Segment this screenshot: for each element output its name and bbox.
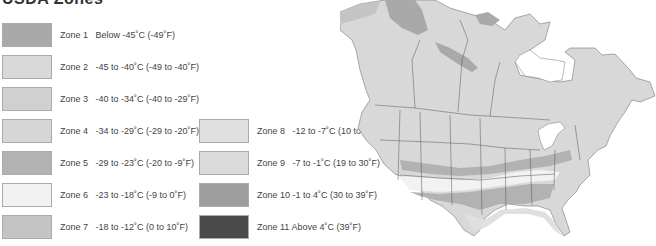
legend-item-zone-4: Zone 4 -34 to -29˚C (-29 to -20˚F) xyxy=(2,118,199,144)
zone-3-swatch xyxy=(2,87,52,111)
zone-2-label: Zone 2 -45 to -40˚C (-49 to -40˚F) xyxy=(60,62,199,72)
zone-6-swatch xyxy=(2,183,52,207)
zone-1-swatch xyxy=(2,23,52,47)
zone-5-label: Zone 5 -29 to -23˚C (-20 to -9˚F) xyxy=(60,158,194,168)
zone-3-label: Zone 3 -40 to -34˚C (-40 to -29˚F) xyxy=(60,94,199,104)
legend-item-zone-3: Zone 3 -40 to -34˚C (-40 to -29˚F) xyxy=(2,86,199,112)
legend-item-zone-1: Zone 1 Below -45˚C (-49˚F) xyxy=(2,22,175,48)
page-title: USDA Zones xyxy=(2,0,103,8)
legend-item-zone-6: Zone 6 -23 to -18˚C (-9 to 0˚F) xyxy=(2,182,186,208)
zone-2-swatch xyxy=(2,55,52,79)
legend-item-zone-2: Zone 2 -45 to -40˚C (-49 to -40˚F) xyxy=(2,54,199,80)
zone-11-swatch xyxy=(199,215,249,239)
legend-item-zone-5: Zone 5 -29 to -23˚C (-20 to -9˚F) xyxy=(2,150,194,176)
zone-6-label: Zone 6 -23 to -18˚C (-9 to 0˚F) xyxy=(60,190,186,200)
zone-9-swatch xyxy=(199,151,249,175)
zone-1-label: Zone 1 Below -45˚C (-49˚F) xyxy=(60,30,175,40)
zone-8-swatch xyxy=(199,119,249,143)
zone-7-label: Zone 7 -18 to -12˚C (0 to 10˚F) xyxy=(60,222,188,232)
legend-item-zone-7: Zone 7 -18 to -12˚C (0 to 10˚F) xyxy=(2,214,188,240)
zone-5-swatch xyxy=(2,151,52,175)
zone-10-swatch xyxy=(199,183,249,207)
zone-4-label: Zone 4 -34 to -29˚C (-29 to -20˚F) xyxy=(60,126,199,136)
north-america-zone-map xyxy=(340,0,656,246)
zone-7-swatch xyxy=(2,215,52,239)
zone-4-swatch xyxy=(2,119,52,143)
legend-item-zone-11: Zone 11 Above 4˚C (39˚F) xyxy=(199,214,361,240)
